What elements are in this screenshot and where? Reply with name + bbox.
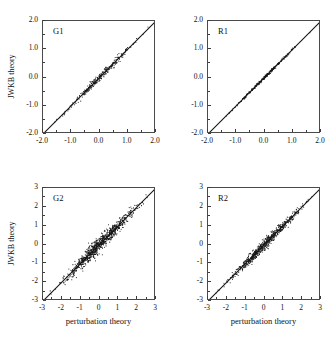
tick-x-r2-4 [282, 296, 283, 299]
tick-x-minor-g2-1 [70, 297, 71, 299]
tick-y-g1-0 [43, 20, 46, 21]
tick-y-minor-r2-5 [208, 291, 210, 292]
plot-area-r1 [208, 21, 320, 133]
tick-x-g2-6 [155, 296, 156, 299]
tick-y-r2-5 [208, 281, 211, 282]
tick-y-minor-r2-3 [208, 253, 210, 254]
tick-label-x-g1-1: -1.0 [55, 136, 85, 145]
panel-label-g1: G1 [53, 26, 64, 36]
tick-y-g2-5 [43, 281, 46, 282]
tick-x-minor-r1-0 [221, 130, 222, 132]
tick-x-r1-1 [235, 129, 236, 132]
tick-x-g2-3 [99, 296, 100, 299]
tick-x-r2-5 [301, 296, 302, 299]
tick-label-y-r1-0: 2.0 [173, 15, 203, 24]
tick-x-minor-g1-1 [84, 130, 85, 132]
tick-x-r2-6 [320, 296, 321, 299]
tick-x-minor-g1-3 [141, 130, 142, 132]
plot-frame-r1 [207, 20, 320, 133]
tick-x-minor-g2-4 [127, 297, 128, 299]
tick-label-x-g1-4: 2.0 [140, 136, 170, 145]
tick-label-x-g1-2: 0.0 [84, 136, 114, 145]
figure-scatter-grid: G12.01.00.0-1.0-2.0-2.0-1.00.01.02.0JWKB… [0, 0, 329, 338]
tick-x-g1-2 [99, 129, 100, 132]
tick-y-r2-3 [208, 244, 211, 245]
tick-x-minor-g1-0 [56, 130, 57, 132]
tick-y-minor-g2-4 [43, 272, 45, 273]
tick-x-g2-0 [42, 296, 43, 299]
tick-label-x-g1-3: 1.0 [112, 136, 142, 145]
plot-area-g2 [43, 188, 155, 300]
tick-y-minor-g1-2 [43, 91, 45, 92]
tick-x-g1-1 [70, 129, 71, 132]
tick-label-y-r2-3: 0 [173, 239, 203, 248]
y-axis-label-g1: JWKB theory [7, 20, 16, 133]
tick-x-r1-0 [207, 129, 208, 132]
tick-y-g1-4 [43, 133, 46, 134]
tick-y-r1-1 [208, 48, 211, 49]
tick-label-y-r2-2: 1 [173, 220, 203, 229]
tick-label-x-r1-0: -2.0 [192, 136, 222, 145]
tick-x-minor-g2-0 [51, 297, 52, 299]
tick-x-g1-3 [127, 129, 128, 132]
panel-label-g2: G2 [53, 193, 64, 203]
tick-x-minor-r2-2 [254, 297, 255, 299]
plot-frame-r2 [207, 187, 320, 300]
tick-x-r2-0 [207, 296, 208, 299]
tick-label-x-r2-6: 3 [305, 303, 329, 312]
tick-label-y-r2-5: -2 [173, 276, 203, 285]
tick-y-minor-r1-1 [208, 62, 210, 63]
tick-y-minor-r2-1 [208, 215, 210, 216]
tick-x-r1-4 [320, 129, 321, 132]
tick-y-g1-1 [43, 48, 46, 49]
tick-y-g2-1 [43, 206, 46, 207]
tick-label-x-r1-3: 1.0 [277, 136, 307, 145]
tick-label-y-r2-1: 2 [173, 201, 203, 210]
tick-label-x-r1-2: 0.0 [249, 136, 279, 145]
tick-y-minor-r1-0 [208, 34, 210, 35]
tick-x-minor-r2-4 [292, 297, 293, 299]
panel-label-r2: R2 [218, 193, 228, 203]
tick-y-minor-r2-2 [208, 234, 210, 235]
tick-y-minor-r2-0 [208, 196, 210, 197]
tick-label-x-r1-1: -1.0 [220, 136, 250, 145]
tick-x-minor-g1-2 [113, 130, 114, 132]
tick-label-y-r1-2: 0.0 [173, 72, 203, 81]
tick-x-minor-r1-2 [278, 130, 279, 132]
x-axis-label-g2: perturbation theory [42, 316, 155, 326]
plot-area-g1 [43, 21, 155, 133]
tick-y-g2-0 [43, 187, 46, 188]
tick-label-y-r1-3: -1.0 [173, 100, 203, 109]
tick-y-r1-2 [208, 77, 211, 78]
tick-y-minor-g2-0 [43, 196, 45, 197]
tick-label-y-r2-0: 3 [173, 182, 203, 191]
x-axis-label-r2: perturbation theory [207, 316, 320, 326]
tick-x-r2-2 [245, 296, 246, 299]
tick-y-g2-2 [43, 225, 46, 226]
plot-area-r2 [208, 188, 320, 300]
tick-y-minor-r2-4 [208, 272, 210, 273]
tick-x-g2-4 [117, 296, 118, 299]
tick-y-r2-4 [208, 262, 211, 263]
panel-label-r1: R1 [218, 26, 228, 36]
tick-x-minor-g2-2 [89, 297, 90, 299]
plot-frame-g2 [42, 187, 155, 300]
tick-x-r1-3 [292, 129, 293, 132]
tick-label-x-r1-4: 2.0 [305, 136, 329, 145]
tick-x-r1-2 [264, 129, 265, 132]
tick-x-minor-r1-1 [249, 130, 250, 132]
tick-label-x-g2-6: 3 [140, 303, 170, 312]
tick-y-minor-g1-1 [43, 62, 45, 63]
tick-x-minor-g2-3 [108, 297, 109, 299]
tick-y-g2-3 [43, 244, 46, 245]
tick-y-minor-g2-2 [43, 234, 45, 235]
tick-label-y-r2-4: -1 [173, 257, 203, 266]
tick-y-minor-r1-3 [208, 119, 210, 120]
tick-label-x-g1-0: -2.0 [27, 136, 57, 145]
tick-x-g2-1 [61, 296, 62, 299]
y-axis-label-g2: JWKB theory [7, 187, 16, 300]
tick-y-minor-r1-2 [208, 91, 210, 92]
tick-y-minor-g2-5 [43, 291, 45, 292]
tick-y-g1-3 [43, 105, 46, 106]
tick-x-minor-r2-5 [311, 297, 312, 299]
